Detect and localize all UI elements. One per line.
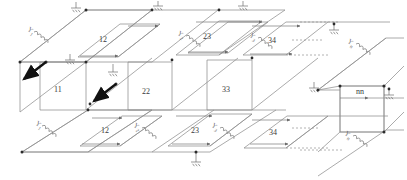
cell-label-bot-23: 23 bbox=[191, 127, 199, 135]
cell-label-top-23: 23 bbox=[203, 33, 211, 41]
figure-canvas: 12 23 34 11 22 33 nn 12 23 34 Y1 Y2 Y3 Y… bbox=[0, 0, 407, 180]
depth-diagonals bbox=[20, 10, 318, 112]
ground-symbols bbox=[65, 1, 394, 166]
cell-label-mid-33: 33 bbox=[222, 86, 230, 94]
cell-label-mid-nn: nn bbox=[356, 88, 364, 96]
cell-label-mid-11: 11 bbox=[54, 86, 62, 94]
vertical-faces-top bbox=[40, 60, 384, 132]
nn-cell-panel bbox=[318, 66, 404, 152]
admittance-coils bbox=[34, 30, 371, 147]
cell-label-top-34: 34 bbox=[268, 37, 276, 45]
cell-label-top-12: 12 bbox=[99, 36, 107, 44]
cell-label-mid-22: 22 bbox=[142, 88, 150, 96]
cell-label-bot-34: 34 bbox=[269, 129, 277, 137]
flow-arrow-heads bbox=[80, 22, 368, 144]
lattice-geometry bbox=[19, 1, 405, 176]
top-surface-edges bbox=[20, 10, 285, 62]
bottom-plane-cells bbox=[22, 110, 404, 176]
cell-label-bot-12: 12 bbox=[101, 127, 109, 135]
continuation-dashes bbox=[286, 22, 344, 150]
source-arrows bbox=[24, 62, 116, 101]
far-right-connectors bbox=[318, 22, 404, 116]
